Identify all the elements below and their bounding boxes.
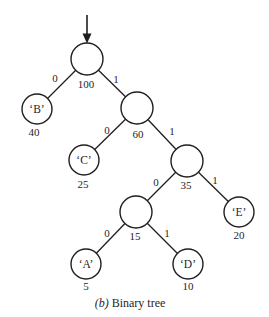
node-D-weight: 10 (183, 280, 195, 292)
node-A-weight: 5 (83, 280, 89, 292)
figure-caption-index: (b) (95, 296, 109, 310)
node-B-weight: 40 (29, 126, 41, 138)
node-A-char: ‘A’ (79, 258, 94, 270)
binary-tree-canvas: 0 1 0 1 0 1 0 1 ‘B’ ‘C’ ‘E’ ‘A’ ‘D’ 100 … (0, 0, 269, 317)
down-arrow-icon (83, 15, 92, 44)
node-root (71, 43, 103, 75)
node-D-char: ‘D’ (180, 258, 196, 270)
node-B-char: ‘B’ (29, 103, 44, 115)
node-n15 (120, 196, 152, 228)
bit-n15-D: 1 (164, 227, 170, 239)
node-C-char: ‘C’ (76, 154, 91, 166)
node-n15-weight: 15 (130, 230, 142, 242)
node-E-weight: 20 (234, 229, 246, 241)
node-E-char: ‘E’ (232, 206, 247, 218)
node-n60-weight: 60 (133, 128, 145, 140)
figure-caption-title: Binary tree (109, 296, 166, 310)
binary-tree-figure: 0 1 0 1 0 1 0 1 ‘B’ ‘C’ ‘E’ ‘A’ ‘D’ 100 … (0, 0, 269, 317)
node-root-weight: 100 (78, 78, 95, 90)
arrow-head (83, 34, 92, 44)
bit-root-B: 0 (52, 72, 58, 84)
bit-n35-n15: 0 (153, 176, 159, 188)
figure-caption: (b) Binary tree (95, 296, 166, 310)
node-n60 (121, 92, 153, 124)
node-n35-weight: 35 (181, 179, 193, 191)
node-C-weight: 25 (78, 178, 90, 190)
bit-n15-A: 0 (104, 227, 110, 239)
node-n35 (171, 145, 203, 177)
bit-n35-E: 1 (212, 174, 218, 186)
bit-root-n60: 1 (113, 73, 119, 85)
bit-n60-C: 0 (104, 124, 110, 136)
bit-n60-n35: 1 (169, 125, 175, 137)
